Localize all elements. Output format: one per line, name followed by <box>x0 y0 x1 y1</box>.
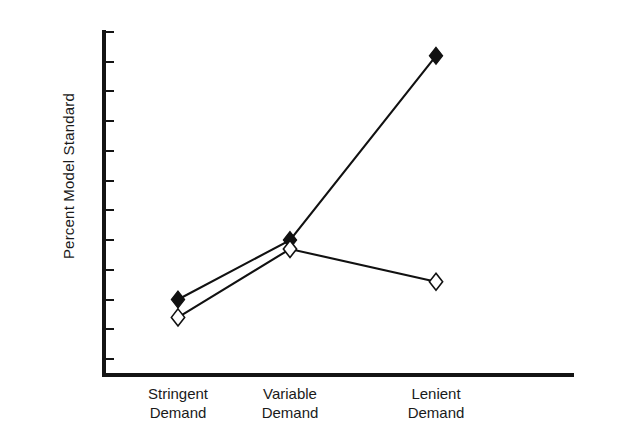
y-tick-mark <box>106 299 114 301</box>
y-tick-mark <box>106 358 114 360</box>
x-axis-tick-labels: StringentDemandVariableDemandLenientDema… <box>102 384 574 434</box>
y-tick-mark <box>106 61 114 63</box>
y-axis-ticks: .90.951.001.051.101.151.201.251.301.351.… <box>102 30 574 377</box>
x-tick-label: LenientDemand <box>351 384 521 422</box>
y-tick-mark <box>106 31 114 33</box>
y-tick-mark <box>106 90 114 92</box>
y-tick-mark <box>106 180 114 182</box>
x-tick-label: VariableDemand <box>205 384 375 422</box>
x-tick-label-line: Variable <box>205 384 375 403</box>
y-tick-mark <box>106 209 114 211</box>
plot-area: .90.951.001.051.101.151.201.251.301.351.… <box>102 30 574 377</box>
x-tick-label-line: Lenient <box>351 384 521 403</box>
chart-figure: Percent Model Standard .90.951.001.051.1… <box>0 0 618 441</box>
x-tick-label-line: Demand <box>205 403 375 422</box>
y-tick-mark <box>106 150 114 152</box>
y-tick-mark <box>106 328 114 330</box>
y-tick-mark <box>106 269 114 271</box>
y-tick-mark <box>106 239 114 241</box>
y-axis-title: Percent Model Standard <box>46 6 90 346</box>
x-tick-label-line: Demand <box>351 403 521 422</box>
y-tick-mark <box>106 120 114 122</box>
